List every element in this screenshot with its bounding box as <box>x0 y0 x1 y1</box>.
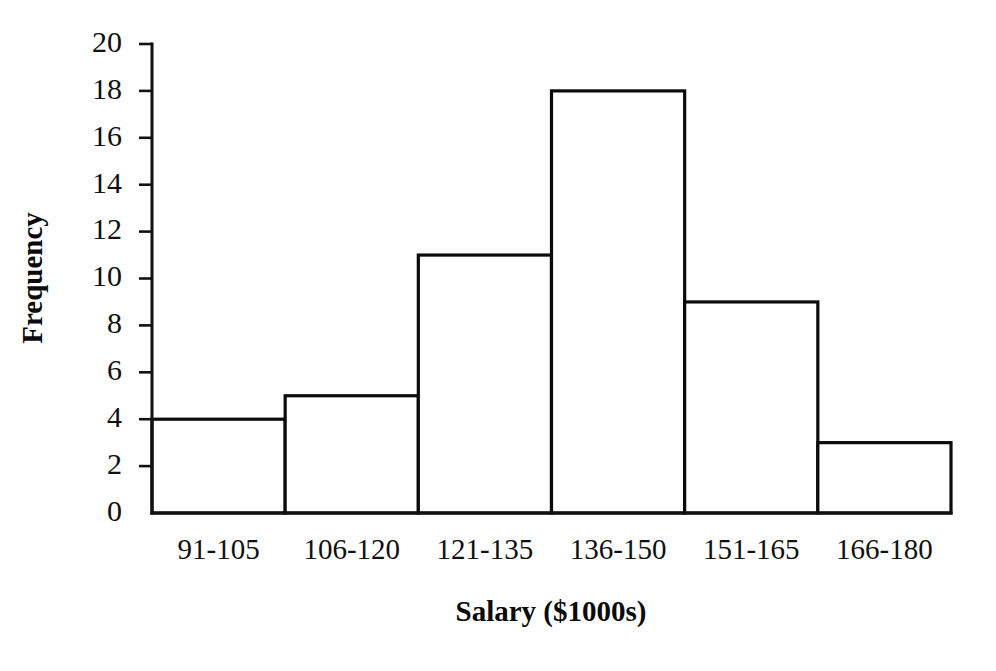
histogram-bar <box>285 396 418 513</box>
x-axis-tick-label: 121-135 <box>437 533 534 565</box>
frequency-histogram-chart: 02468101214161820 91-105106-120121-13513… <box>0 0 996 671</box>
y-axis-tick-label: 14 <box>92 166 122 199</box>
y-axis-title: Frequency <box>16 212 48 344</box>
y-axis-tick-label: 20 <box>92 25 122 58</box>
y-axis-tick-label: 6 <box>107 353 122 386</box>
x-axis-tick-label: 106-120 <box>303 533 400 565</box>
y-axis-tick-label: 10 <box>92 259 122 292</box>
x-axis-title: Salary ($1000s) <box>456 595 647 628</box>
histogram-bar <box>685 302 818 513</box>
y-axis-tick-label: 2 <box>107 447 122 480</box>
histogram-figure: 02468101214161820 91-105106-120121-13513… <box>0 0 996 671</box>
y-axis-tick-label: 16 <box>92 119 122 152</box>
y-axis-tick-label: 0 <box>107 494 122 527</box>
histogram-bar <box>818 443 951 513</box>
y-axis-tick-label: 8 <box>107 306 122 339</box>
y-axis-tick-label: 12 <box>92 212 122 245</box>
x-axis-tick-label: 136-150 <box>570 533 667 565</box>
histogram-bar <box>418 255 551 513</box>
y-axis-tick-label: 4 <box>107 400 122 433</box>
histogram-bar <box>152 419 285 513</box>
x-axis-tick-label: 166-180 <box>836 533 933 565</box>
histogram-bar <box>552 91 685 513</box>
x-axis-tick-label: 151-165 <box>703 533 800 565</box>
y-axis-tick-label: 18 <box>92 72 122 105</box>
x-axis-tick-label: 91-105 <box>177 533 259 565</box>
